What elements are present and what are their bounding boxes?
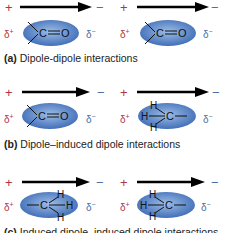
positive-pole: + xyxy=(120,86,128,99)
dipole-arrow-icon xyxy=(137,87,209,97)
svg-text:H: H xyxy=(140,200,147,211)
partial-positive: δ+ xyxy=(120,112,130,125)
carbonyl-molecule: C O xyxy=(21,101,79,131)
partial-positive: δ+ xyxy=(120,200,130,213)
partial-positive: δ+ xyxy=(4,27,14,40)
negative-pole: − xyxy=(212,86,220,99)
partial-negative: δ− xyxy=(86,112,96,125)
partial-positive: δ+ xyxy=(120,27,130,40)
svg-text:H: H xyxy=(57,189,64,200)
svg-text:C: C xyxy=(165,199,173,211)
svg-text:O: O xyxy=(61,27,70,39)
partial-positive: δ+ xyxy=(4,112,14,125)
positive-pole: + xyxy=(5,86,13,99)
dipole-arrow-icon xyxy=(22,87,90,97)
svg-text:C: C xyxy=(38,110,46,122)
positive-pole: + xyxy=(120,176,128,189)
svg-text:H: H xyxy=(57,212,64,222)
svg-text:H: H xyxy=(66,200,73,211)
carbonyl-molecule: C O xyxy=(22,19,80,47)
positive-pole: + xyxy=(5,176,13,189)
svg-text:C: C xyxy=(156,27,164,39)
negative-pole: − xyxy=(96,1,104,14)
methane-molecule: C H H H xyxy=(19,188,79,222)
partial-negative: δ− xyxy=(203,112,213,125)
svg-text:C: C xyxy=(166,110,174,122)
panel-caption: (b) Dipole–induced dipole interactions xyxy=(4,138,180,150)
carbonyl-molecule: C O xyxy=(139,19,197,47)
partial-negative: δ− xyxy=(86,200,96,213)
methane-molecule: H H H C xyxy=(136,188,196,222)
negative-pole: − xyxy=(211,1,219,14)
positive-pole: + xyxy=(5,1,13,14)
svg-text:O: O xyxy=(178,27,187,39)
svg-text:O: O xyxy=(60,110,69,122)
svg-text:H: H xyxy=(149,189,156,200)
dipole-arrow-icon xyxy=(137,2,209,12)
dipole-arrow-icon xyxy=(22,177,90,187)
positive-pole: + xyxy=(120,1,128,14)
partial-negative: δ− xyxy=(86,27,96,40)
negative-pole: − xyxy=(211,176,219,189)
panel-caption: (c) Induced dipole–induced dipole intera… xyxy=(4,226,218,233)
svg-text:H: H xyxy=(150,100,157,111)
partial-negative: δ− xyxy=(203,27,213,40)
panel-caption: (a) Dipole-dipole interactions xyxy=(4,52,138,64)
dipole-arrow-icon xyxy=(137,177,205,187)
svg-text:C: C xyxy=(39,27,47,39)
methane-molecule: H H H C xyxy=(137,99,197,133)
dipole-arrow-icon xyxy=(20,2,92,12)
partial-negative: δ− xyxy=(201,200,211,213)
partial-positive: δ+ xyxy=(4,200,14,213)
svg-text:C: C xyxy=(40,199,48,211)
negative-pole: − xyxy=(96,176,104,189)
svg-text:H: H xyxy=(141,111,148,122)
negative-pole: − xyxy=(97,86,105,99)
